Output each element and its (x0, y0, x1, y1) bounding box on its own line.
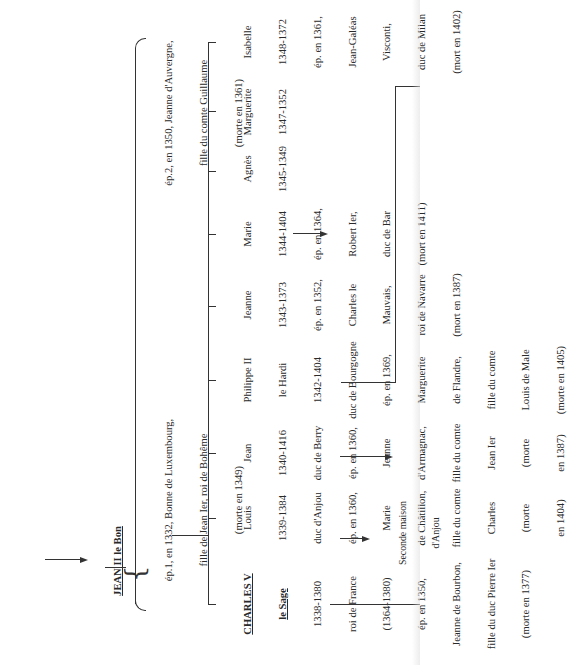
charles-descendant-line (330, 604, 420, 605)
children-line (208, 42, 209, 605)
child-tick-marie (208, 234, 216, 235)
jean-arrow-icon (385, 454, 393, 460)
child-tick-philippe (208, 380, 216, 381)
child-tick-isabelle (208, 42, 216, 43)
child-tick-louis (208, 518, 216, 519)
child-agnes: Agnès 1345-1349 (219, 138, 312, 200)
marie-arrow-line (293, 233, 321, 234)
child-tick-marguerite (208, 111, 216, 112)
page-edge-shadow (412, 0, 420, 665)
child-tick-jeanne (208, 306, 216, 307)
incoming-arrow-icon (80, 557, 88, 563)
root-title: JEAN II le Bon (112, 526, 124, 596)
child-tick-jean (208, 453, 216, 454)
spouse-bracket-line (135, 48, 136, 604)
root-name: JEAN II le Bon (89, 526, 147, 596)
child-marguerite: Marguerite 1347-1352 (219, 81, 312, 143)
child-tick-agnes (208, 171, 216, 172)
child-isabelle: Isabelle 1348-1372 ép. en 1361, Jean-Gal… (219, 4, 486, 80)
philippe-line (341, 382, 395, 383)
marie-arrow-icon (320, 231, 328, 237)
jean-arrow-line (340, 456, 386, 457)
spouse-bracket-bottom (135, 600, 146, 611)
louis-arrow-icon (362, 536, 370, 542)
child-tick-charles (208, 604, 216, 605)
louis-arrow-line (340, 538, 364, 539)
incoming-line (45, 559, 83, 560)
philippe-vertical-line (395, 86, 396, 383)
spouse-to-children-line (172, 535, 208, 536)
